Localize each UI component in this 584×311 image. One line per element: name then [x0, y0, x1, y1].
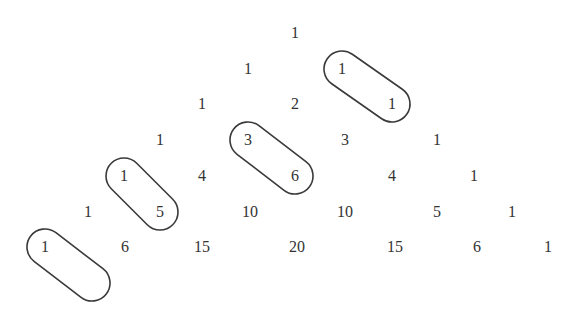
triangle-cell-r4-c4: 1	[470, 168, 478, 184]
highlight-pill-diagonal-1-empty	[20, 222, 117, 308]
triangle-cell-r6-c2: 15	[194, 239, 210, 255]
triangle-cell-r4-c3: 4	[388, 168, 396, 184]
triangle-cell-r5-c4: 5	[433, 204, 441, 220]
triangle-cell-r5-c2: 10	[242, 204, 258, 220]
pascal-triangle-diagram: 111121133114641151010511615201561	[0, 0, 584, 311]
triangle-cell-r1-c0: 1	[244, 61, 252, 77]
triangle-cell-r2-c2: 1	[388, 96, 396, 112]
triangle-cell-r2-c0: 1	[198, 96, 206, 112]
triangle-cell-r3-c0: 1	[156, 132, 164, 148]
triangle-cell-r4-c2: 6	[291, 168, 299, 184]
triangle-cell-r1-c1: 1	[338, 61, 346, 77]
triangle-cell-r6-c5: 6	[473, 239, 481, 255]
triangle-cell-r5-c5: 1	[508, 204, 516, 220]
highlight-pills-layer	[0, 0, 584, 311]
triangle-cell-r3-c1: 3	[244, 132, 252, 148]
triangle-cell-r3-c2: 3	[341, 132, 349, 148]
triangle-cell-r6-c4: 15	[387, 239, 403, 255]
triangle-cell-r0-c0: 1	[291, 25, 299, 41]
triangle-cell-r4-c0: 1	[120, 168, 128, 184]
triangle-cell-r4-c1: 4	[198, 168, 206, 184]
triangle-cell-r5-c1: 5	[156, 204, 164, 220]
triangle-cell-r3-c3: 1	[433, 132, 441, 148]
triangle-cell-r5-c0: 1	[84, 204, 92, 220]
triangle-cell-r5-c3: 10	[337, 204, 353, 220]
triangle-cell-r6-c0: 1	[41, 239, 49, 255]
triangle-cell-r6-c6: 1	[544, 239, 552, 255]
highlight-pill-diagonal-1-5	[99, 151, 186, 238]
triangle-cell-r6-c1: 6	[121, 239, 129, 255]
triangle-cell-r6-c3: 20	[289, 239, 305, 255]
triangle-cell-r2-c1: 2	[291, 96, 299, 112]
highlight-pill-diagonal-1-1	[317, 44, 417, 129]
highlight-pill-diagonal-3-6	[223, 115, 320, 201]
